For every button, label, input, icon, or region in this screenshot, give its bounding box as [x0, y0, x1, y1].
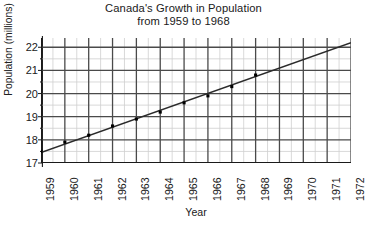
plot-area: [41, 38, 351, 163]
x-axis-tick-label: 1963: [140, 161, 150, 201]
x-axis-tick-label: 1965: [188, 161, 198, 201]
y-axis-tick-label: 19: [12, 112, 38, 122]
y-axis-tick-label: 17: [12, 158, 38, 168]
x-axis-tick-label: 1970: [307, 161, 317, 201]
x-axis-tick-label: 1971: [331, 161, 341, 201]
x-axis-tick-label: 1960: [69, 161, 79, 201]
chart-title: Canada's Growth in Population from 1959 …: [0, 2, 367, 28]
y-axis-tick-label: 22: [12, 42, 38, 52]
chart-title-line-2: from 1959 to 1968: [0, 15, 367, 28]
population-growth-chart: Canada's Growth in Population from 1959 …: [0, 0, 367, 227]
x-axis-tick-label: 1972: [355, 161, 365, 201]
x-axis-tick-label: 1964: [164, 161, 174, 201]
chart-data-layer: [41, 38, 351, 163]
x-axis-tick-labels: 1959196019611962196319641965196619671968…: [41, 164, 353, 204]
y-axis-tick-label: 18: [12, 135, 38, 145]
y-axis-tick-labels: 171819202122: [8, 38, 38, 163]
x-axis-tick-label: 1961: [93, 161, 103, 201]
chart-title-line-1: Canada's Growth in Population: [0, 2, 367, 15]
x-axis-tick-label: 1959: [45, 161, 55, 201]
x-axis-tick-label: 1968: [260, 161, 270, 201]
y-axis-tick-label: 21: [12, 65, 38, 75]
x-axis-tick-label: 1966: [212, 161, 222, 201]
y-axis-tick-label: 20: [12, 89, 38, 99]
x-axis-tick-label: 1967: [236, 161, 246, 201]
x-axis-tick-label: 1969: [283, 161, 293, 201]
x-axis-title: Year: [41, 206, 351, 218]
x-axis-tick-label: 1962: [117, 161, 127, 201]
